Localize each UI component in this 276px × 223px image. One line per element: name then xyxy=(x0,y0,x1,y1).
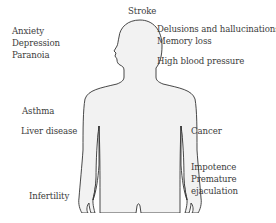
label-anxiety: Anxiety xyxy=(12,25,60,37)
label-premature: Premature xyxy=(191,173,238,185)
label-delusions-hallucinations: Delusions and hallucinations xyxy=(157,23,276,35)
label-group-cognitive: Delusions and hallucinations Memory loss xyxy=(157,23,276,47)
label-asthma: Asthma xyxy=(22,106,54,117)
label-paranoia: Paranoia xyxy=(12,49,60,61)
label-group-sexual-health: Impotence Premature ejaculation xyxy=(191,161,238,197)
label-impotence: Impotence xyxy=(191,161,238,173)
label-stroke: Stroke xyxy=(128,6,156,17)
label-high-blood-pressure: High blood pressure xyxy=(157,56,244,67)
label-group-mental-health: Anxiety Depression Paranoia xyxy=(12,25,60,61)
label-infertility: Infertility xyxy=(29,191,69,202)
label-memory-loss: Memory loss xyxy=(157,35,276,47)
label-liver-disease: Liver disease xyxy=(21,126,77,137)
label-depression: Depression xyxy=(12,37,60,49)
label-ejaculation: ejaculation xyxy=(191,185,238,197)
body-diagram: Stroke Anxiety Depression Paranoia Delus… xyxy=(0,0,276,223)
label-cancer: Cancer xyxy=(191,126,222,137)
